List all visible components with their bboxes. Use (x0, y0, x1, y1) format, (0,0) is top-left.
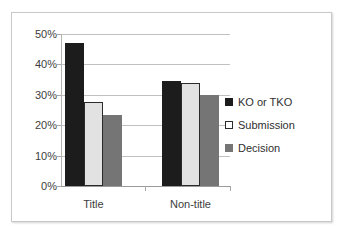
bar-nontitle-decision (200, 95, 219, 186)
y-axis-labels: 50% 40% 30% 20% 10% 0% (12, 34, 57, 187)
x-axis-line (61, 186, 231, 187)
y-tick-label-0: 0% (41, 181, 57, 192)
y-tick-label-30: 30% (35, 90, 57, 101)
y-tick-40 (57, 64, 61, 65)
y-tick-0 (57, 186, 61, 187)
y-tick-50 (57, 34, 61, 35)
legend-item-decision: Decision (225, 136, 325, 159)
x-tick-label-title: Title (51, 198, 136, 210)
legend-swatch-square-icon-decision (225, 144, 233, 152)
legend-item-ko-or-tko: KO or TKO (225, 90, 325, 113)
y-tick-20 (57, 125, 61, 126)
bar-title-decision (103, 115, 122, 186)
bar-nontitle-ko-or-tko (162, 81, 181, 186)
legend-label-decision: Decision (238, 142, 280, 154)
legend-item-submission: Submission (225, 113, 325, 136)
legend-swatch-square-icon-submission (225, 121, 233, 129)
y-axis-line (61, 34, 62, 187)
y-tick-label-40: 40% (35, 59, 57, 70)
plot-area: Title Non-title (61, 34, 230, 186)
bar-title-ko-or-tko (65, 43, 84, 186)
y-tick-30 (57, 95, 61, 96)
gridline-50 (61, 34, 230, 35)
legend-label-submission: Submission (238, 119, 295, 131)
x-tick-label-non-title: Non-title (148, 198, 233, 210)
chart-screenshot: 50% 40% 30% 20% 10% 0% (0, 0, 350, 244)
y-tick-label-10: 10% (35, 151, 57, 162)
y-tick-label-20: 20% (35, 120, 57, 131)
y-tick-label-50: 50% (35, 29, 57, 40)
gridline-40 (61, 64, 230, 65)
legend-label-ko-or-tko: KO or TKO (238, 96, 292, 108)
legend-swatch-square-icon-ko-or-tko (225, 98, 233, 106)
x-tick-group-divider (145, 186, 146, 191)
bar-title-submission (84, 102, 103, 186)
x-tick-end (230, 186, 231, 191)
legend: KO or TKO Submission Decision (225, 90, 325, 159)
y-tick-10 (57, 156, 61, 157)
bar-nontitle-submission (181, 83, 200, 186)
